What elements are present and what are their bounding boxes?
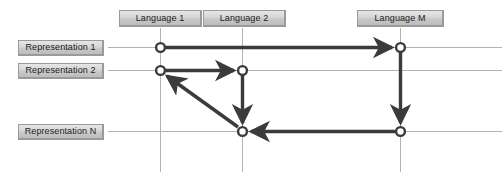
column-label-lang2-text: Language 2 (220, 14, 269, 23)
column-label-lang1-text: Language 1 (136, 14, 185, 23)
row-label-repN-text: Representation N (25, 127, 97, 136)
node-repN-langM[interactable] (396, 127, 405, 136)
column-label-lang1[interactable]: Language 1 (119, 10, 202, 27)
column-label-langM-text: Language M (374, 14, 425, 23)
row-label-rep2-text: Representation 2 (25, 66, 95, 75)
node-rep2-lang1[interactable] (156, 66, 165, 75)
row-label-rep1[interactable]: Representation 1 (18, 40, 104, 56)
node-rep1-langM[interactable] (396, 43, 405, 52)
column-label-lang2[interactable]: Language 2 (203, 10, 286, 27)
node-rep2-lang2[interactable] (238, 66, 247, 75)
row-label-repN[interactable]: Representation N (18, 124, 104, 140)
column-label-langM[interactable]: Language M (357, 10, 444, 27)
node-rep1-lang1[interactable] (156, 43, 165, 52)
node-repN-lang2[interactable] (238, 127, 247, 136)
nodes-layer (0, 0, 502, 181)
row-label-rep1-text: Representation 1 (25, 43, 95, 52)
row-label-rep2[interactable]: Representation 2 (18, 63, 104, 79)
diagram-canvas: Language 1 Language 2 Language M Represe… (0, 0, 502, 181)
